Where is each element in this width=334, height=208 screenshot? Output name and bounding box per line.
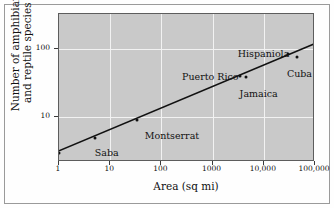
data-point	[135, 119, 138, 122]
x-tick-label: 100	[153, 165, 167, 173]
point-label: Cuba	[287, 69, 312, 79]
point-label: Puerto Rico	[182, 72, 238, 82]
data-point	[239, 74, 242, 77]
x-tick-label: 1000	[202, 165, 221, 173]
x-tick-label: 100,000	[298, 165, 329, 173]
point-label: Montserrat	[145, 131, 199, 141]
point-label: Saba	[95, 148, 119, 158]
plot-panel: RedondaSabaMontserratPuerto RicoJamaicaH…	[58, 13, 314, 161]
x-axis-title: Area (sq mi)	[58, 180, 314, 192]
data-point	[295, 55, 298, 58]
y-tick-mark	[54, 48, 58, 49]
x-tick-label: 1	[56, 165, 61, 173]
x-tick-label: 10	[104, 165, 114, 173]
y-axis-title-line2: and reptile species	[22, 0, 34, 127]
point-label: Hispaniola	[238, 49, 290, 59]
y-axis-title: Number of amphibian and reptile species	[10, 0, 34, 127]
x-tick-label: 10,000	[250, 165, 276, 173]
y-axis-title-line1: Number of amphibian	[9, 0, 21, 111]
point-label: Jamaica	[240, 89, 278, 99]
data-point	[93, 136, 96, 139]
data-point	[244, 75, 247, 78]
chart-figure: RedondaSabaMontserratPuerto RicoJamaicaH…	[0, 0, 334, 208]
y-tick-mark	[54, 116, 58, 117]
